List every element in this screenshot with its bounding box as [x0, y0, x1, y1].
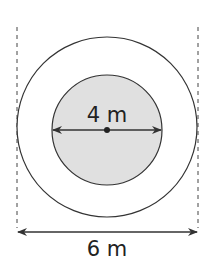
outer-diameter-label: 6 m: [87, 237, 128, 261]
inner-diameter-label: 4 m: [87, 103, 128, 127]
center-point: [104, 127, 110, 133]
concentric-circles-diagram: 4 m 6 m: [0, 0, 213, 270]
